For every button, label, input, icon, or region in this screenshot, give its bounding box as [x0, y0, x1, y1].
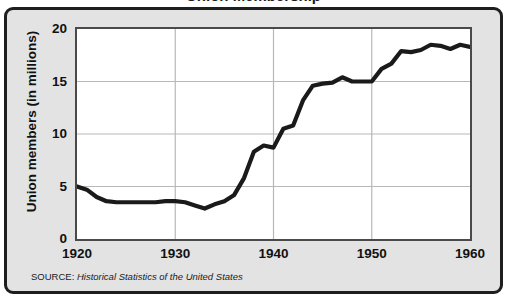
source-title: Historical Statistics of the United Stat…	[77, 271, 243, 282]
x-tick-label: 1940	[239, 246, 309, 261]
x-tick-label: 1950	[337, 246, 407, 261]
chart-panel: Union members (in millions) 05101520 192…	[4, 7, 503, 294]
plot-svg	[77, 29, 470, 239]
x-tick-label: 1930	[140, 246, 210, 261]
y-tick-label: 0	[27, 231, 67, 246]
plot-area	[75, 27, 472, 241]
source-label: SOURCE:	[31, 271, 74, 282]
x-tick-label: 1960	[435, 246, 505, 261]
chart-title-strip: Union Membership	[0, 0, 507, 6]
chart-figure: Union Membership Union members (in milli…	[0, 0, 507, 305]
y-tick-label: 20	[27, 21, 67, 36]
chart-title: Union Membership	[0, 0, 507, 4]
y-tick-label: 15	[27, 74, 67, 89]
x-tick-label: 1920	[42, 246, 112, 261]
y-tick-label: 5	[27, 179, 67, 194]
gridlines	[77, 29, 470, 239]
y-tick-label: 10	[27, 126, 67, 141]
source-note: SOURCE: Historical Statistics of the Uni…	[31, 271, 243, 282]
